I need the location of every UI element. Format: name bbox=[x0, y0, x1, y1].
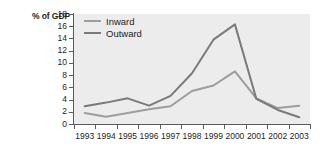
legend-item-outward: Outward bbox=[84, 27, 142, 39]
y-tick-label: 4 bbox=[51, 95, 67, 104]
y-tick-label: 6 bbox=[51, 83, 67, 92]
y-tick-label: 8 bbox=[51, 71, 67, 80]
x-tick-mark bbox=[117, 125, 118, 129]
legend-line-swatch-icon bbox=[84, 32, 101, 34]
x-tick-mark bbox=[203, 125, 204, 129]
y-tick-label: 10 bbox=[51, 58, 67, 67]
legend-item-inward: Inward bbox=[84, 15, 142, 27]
x-axis-line bbox=[73, 124, 311, 125]
y-tick-mark bbox=[69, 124, 73, 125]
y-tick-label-text: 10 bbox=[51, 58, 67, 66]
y-tick-label-text: 8 bbox=[51, 71, 67, 79]
y-tick-label: 14 bbox=[51, 34, 67, 43]
legend-line-swatch-icon bbox=[84, 20, 101, 22]
x-tick-mark bbox=[246, 125, 247, 129]
chart-screenshot: % of GDP 181614121086420 199319941995199… bbox=[0, 0, 328, 152]
x-tick-mark bbox=[181, 125, 182, 129]
x-tick-mark bbox=[267, 125, 268, 129]
y-tick-mark bbox=[69, 75, 73, 76]
y-tick-label-text: 6 bbox=[51, 83, 67, 91]
y-tick-mark bbox=[69, 51, 73, 52]
y-tick-label-text: 12 bbox=[51, 46, 67, 54]
x-tick-mark bbox=[95, 125, 96, 129]
y-tick-label-text: 4 bbox=[51, 95, 67, 103]
legend-item-label: Outward bbox=[106, 28, 142, 39]
x-tick-mark bbox=[310, 125, 311, 129]
x-tick-mark bbox=[289, 125, 290, 129]
y-tick-mark bbox=[69, 14, 73, 15]
y-tick-mark bbox=[69, 100, 73, 101]
y-tick-label: 0 bbox=[51, 120, 67, 129]
y-tick-mark bbox=[69, 38, 73, 39]
y-axis-line bbox=[73, 13, 74, 125]
legend-item-label: Inward bbox=[106, 16, 135, 27]
y-tick-mark bbox=[69, 26, 73, 27]
y-tick-label-text: 16 bbox=[51, 22, 67, 30]
series-line-inward bbox=[85, 71, 300, 116]
y-tick-label-text: 0 bbox=[51, 120, 67, 128]
y-tick-label: 18 bbox=[51, 10, 67, 19]
y-tick-label: 16 bbox=[51, 22, 67, 31]
y-tick-mark bbox=[69, 112, 73, 113]
y-tick-label-text: 2 bbox=[51, 107, 67, 115]
x-tick-mark bbox=[138, 125, 139, 129]
y-tick-mark bbox=[69, 63, 73, 64]
y-tick-label: 2 bbox=[51, 107, 67, 116]
y-tick-label-text: 14 bbox=[51, 34, 67, 42]
y-tick-mark bbox=[69, 87, 73, 88]
x-tick-label: 2003 bbox=[285, 132, 313, 141]
x-tick-mark bbox=[160, 125, 161, 129]
x-tick-mark bbox=[74, 125, 75, 129]
x-tick-mark bbox=[224, 125, 225, 129]
chart-legend: InwardOutward bbox=[84, 15, 142, 39]
y-tick-label: 12 bbox=[51, 46, 67, 55]
y-tick-label-text: 18 bbox=[51, 10, 67, 18]
